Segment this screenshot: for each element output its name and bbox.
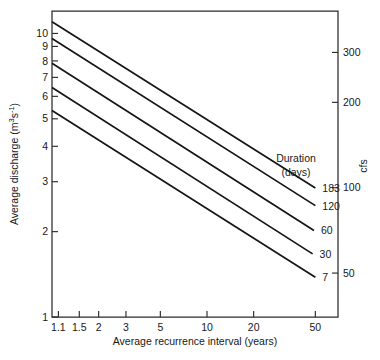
y-tick-label: 10 [36,27,48,39]
y2-tick-label: 50 [343,267,355,279]
x-tick-label: 20 [248,321,260,333]
x-tick-label: 1.5 [72,321,87,333]
x-axis-ticks [58,311,315,317]
series-label-183: 183 [322,182,340,194]
y-tick-label: 8 [42,55,48,67]
chart-figure: 12345678910 50100200300 1.11.5235102050 … [0,0,380,360]
x-tick-label: 2 [96,321,102,333]
legend-title: Duration (days) [276,152,316,178]
data-line-30 [52,87,313,253]
y-tick-label: 4 [42,140,48,152]
y-tick-label: 3 [42,175,48,187]
plot-frame [52,11,338,317]
y-tick-label: 2 [42,225,48,237]
y-tick-label: 5 [42,112,48,124]
y2-tick-label: 200 [343,96,361,108]
y2-axis-ticks [332,52,338,273]
y-tick-label: 6 [42,90,48,102]
x-tick-label: 50 [310,321,322,333]
y2-axis-title: cfs [357,159,369,172]
x-tick-label: 5 [157,321,163,333]
series-label-30: 30 [320,248,332,260]
y2-tick-label: 100 [343,181,361,193]
series-label-120: 120 [322,200,340,212]
legend-title-line2: (days) [281,166,310,178]
data-series-group [52,22,315,278]
y2-tick-label: 300 [343,46,361,58]
x-axis-title: Average recurrence interval (years) [113,335,277,347]
x-tick-label: 1.1 [51,321,66,333]
y-tick-label: 1 [42,311,48,323]
y-axis-ticks [52,33,58,317]
data-line-120 [52,38,315,205]
series-label-60: 60 [321,224,333,236]
x-axis-tick-labels: 1.11.5235102050 [51,321,321,333]
y-tick-label: 9 [42,40,48,52]
y-tick-label: 7 [42,71,48,83]
y-axis-tick-labels: 12345678910 [36,27,48,323]
x-tick-label: 10 [201,321,213,333]
series-label-7: 7 [322,271,328,283]
chart-plot-svg: 12345678910 50100200300 1.11.5235102050 … [0,0,380,360]
y-axis-title: Average discharge (m3s-1) [7,103,20,225]
y-axis-title-text: Average discharge (m [8,122,20,225]
data-line-60 [52,63,314,230]
series-labels-group: 18312060307 [320,182,340,283]
data-line-7 [52,110,315,277]
legend-title-line1: Duration [276,152,316,164]
x-tick-label: 3 [123,321,129,333]
